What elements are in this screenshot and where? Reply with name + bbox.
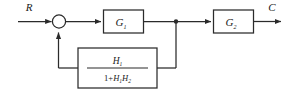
block-g2-rect [214, 10, 254, 33]
output-label-c: C [268, 1, 276, 13]
denominator-term2-subscript: 2 [128, 78, 131, 84]
block-g2-subscript: 2 [233, 24, 236, 30]
feedback-numerator-subscript: 1 [120, 61, 123, 67]
block-g1-base: G [116, 16, 124, 28]
summing-junction-circle [52, 15, 65, 28]
block-g1-rect [104, 10, 144, 33]
block-diagram-svg: R C G1 G2 H1 1+H1H2 [0, 0, 295, 95]
block-g2-base: G [226, 16, 234, 28]
block-g1-subscript: 1 [123, 24, 126, 30]
block-diagram-canvas: R C G1 G2 H1 1+H1H2 [0, 0, 295, 95]
takeoff-point-dot [174, 19, 178, 23]
input-label-r: R [25, 1, 33, 13]
feedback-denominator: 1+H1H2 [104, 73, 131, 84]
